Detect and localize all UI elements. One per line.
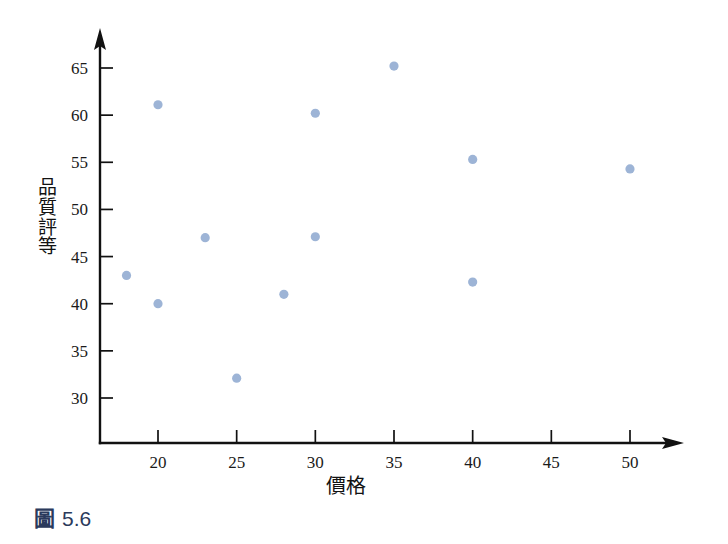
x-tick-label: 25 xyxy=(228,453,245,472)
data-point xyxy=(279,290,288,299)
figure-caption-mark: 圖 xyxy=(34,509,55,530)
figure-caption: 圖 5.6 xyxy=(34,508,91,530)
y-axis-title-char: 等 xyxy=(34,237,60,257)
y-axis-ticks: 3035404550556065 xyxy=(71,59,113,408)
y-tick-label: 55 xyxy=(71,153,88,172)
x-tick-label: 50 xyxy=(622,453,639,472)
x-tick-label: 30 xyxy=(307,453,324,472)
data-point xyxy=(153,299,162,308)
y-tick-label: 30 xyxy=(71,389,88,408)
y-axis-title: 品質評等 xyxy=(34,178,60,257)
data-point xyxy=(468,277,477,286)
data-point-markers xyxy=(122,62,635,383)
figure-caption-number: 5.6 xyxy=(62,508,91,529)
x-axis-title: 價格 xyxy=(326,470,366,499)
y-tick-label: 45 xyxy=(71,248,88,267)
x-tick-label: 40 xyxy=(464,453,481,472)
x-tick-label: 20 xyxy=(150,453,167,472)
data-point xyxy=(122,271,131,280)
y-tick-label: 50 xyxy=(71,200,88,219)
data-point xyxy=(625,164,634,173)
y-tick-label: 60 xyxy=(71,106,88,125)
y-tick-label: 40 xyxy=(71,295,88,314)
data-point xyxy=(389,62,398,71)
data-point xyxy=(468,155,477,164)
x-tick-label: 35 xyxy=(386,453,403,472)
figure-container: 3035404550556065 20253035404550 品質評等 價格 … xyxy=(0,0,728,544)
data-point xyxy=(232,374,241,383)
scatter-plot: 3035404550556065 20253035404550 xyxy=(0,0,728,544)
data-point xyxy=(201,233,210,242)
x-tick-label: 45 xyxy=(543,453,560,472)
data-point xyxy=(311,109,320,118)
y-axis-title-char: 質 xyxy=(34,198,60,218)
x-axis-ticks: 20253035404550 xyxy=(150,430,639,472)
y-tick-label: 35 xyxy=(71,342,88,361)
y-axis-title-char: 品 xyxy=(34,178,60,198)
data-point xyxy=(311,232,320,241)
data-point xyxy=(153,100,162,109)
y-tick-label: 65 xyxy=(71,59,88,78)
